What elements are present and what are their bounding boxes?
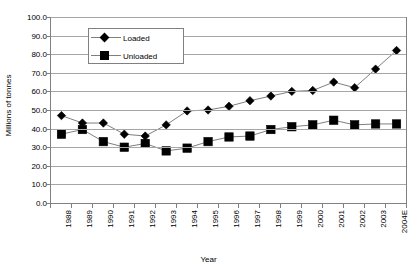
x-tick-label: 2002: [358, 210, 367, 228]
gridline: [51, 184, 407, 185]
legend-marker-diamond-icon: [89, 31, 123, 45]
y-tick-label: 0.0: [36, 199, 47, 208]
data-point-loaded[interactable]: [246, 97, 254, 105]
x-tick-mark: [113, 204, 114, 208]
x-tick-label: 1996: [232, 210, 241, 228]
x-tick-mark: [343, 204, 344, 208]
x-tick-label: 1990: [106, 210, 115, 228]
x-tick-mark: [176, 204, 177, 208]
y-tick-label: 30.0: [31, 143, 47, 152]
data-point-unloaded[interactable]: [288, 123, 296, 131]
y-tick-label: 40.0: [31, 124, 47, 133]
data-point-unloaded[interactable]: [99, 137, 107, 145]
data-point-loaded[interactable]: [57, 111, 65, 119]
gridline: [51, 73, 407, 74]
x-tick-mark: [280, 204, 281, 208]
x-tick-mark: [322, 204, 323, 208]
x-tick-mark: [218, 204, 219, 208]
data-point-unloaded[interactable]: [57, 130, 65, 138]
y-tick-label: 10.0: [31, 180, 47, 189]
data-point-unloaded[interactable]: [371, 120, 379, 128]
data-point-loaded[interactable]: [120, 130, 128, 138]
x-tick-label: 1999: [295, 210, 304, 228]
data-point-loaded[interactable]: [267, 92, 275, 100]
x-tick-label: 1995: [211, 210, 220, 228]
gridline: [51, 91, 407, 92]
data-point-unloaded[interactable]: [246, 132, 254, 140]
x-tick-label: 2001: [337, 210, 346, 228]
legend-label-loaded: Loaded: [123, 34, 150, 43]
x-tick-mark: [385, 204, 386, 208]
x-tick-mark: [259, 204, 260, 208]
x-tick-mark: [406, 204, 407, 208]
data-point-unloaded[interactable]: [330, 116, 338, 124]
data-point-unloaded[interactable]: [204, 137, 212, 145]
data-point-loaded[interactable]: [330, 78, 338, 86]
legend-marker-square-icon: [89, 49, 123, 63]
x-tick-label: 2000: [316, 210, 325, 228]
data-point-loaded[interactable]: [99, 119, 107, 127]
x-tick-label: 2004E: [400, 210, 409, 233]
legend-item-loaded[interactable]: Loaded: [89, 29, 183, 47]
x-tick-mark: [134, 204, 135, 208]
y-axis-tick-labels: 100.090.080.070.060.050.040.030.020.010.…: [14, 0, 50, 210]
x-tick-label: 2003: [379, 210, 388, 228]
x-tick-label: 1991: [127, 210, 136, 228]
x-tick-mark: [50, 204, 51, 208]
legend-item-unloaded[interactable]: Unloaded: [89, 47, 183, 65]
gridline: [51, 129, 407, 130]
x-tick-label: 1992: [148, 210, 157, 228]
y-tick-label: 80.0: [31, 50, 47, 59]
x-tick-label: 1993: [169, 210, 178, 228]
gridline: [51, 147, 407, 148]
x-tick-label: 1988: [64, 210, 73, 228]
plot-frame-right-border: [406, 17, 407, 204]
gridline: [51, 17, 407, 18]
x-tick-mark: [364, 204, 365, 208]
x-tick-label: 1997: [253, 210, 262, 228]
x-tick-label: 1994: [190, 210, 199, 228]
y-tick-label: 100.0: [27, 13, 47, 22]
x-tick-mark: [71, 204, 72, 208]
data-point-unloaded[interactable]: [225, 133, 233, 141]
chart-legend: Loaded Unloaded: [88, 28, 184, 64]
chart-container: Millions of tonnes 100.090.080.070.060.0…: [0, 0, 417, 272]
x-tick-mark: [238, 204, 239, 208]
gridline: [51, 166, 407, 167]
x-tick-mark: [197, 204, 198, 208]
x-tick-label: 1989: [85, 210, 94, 228]
y-axis-title-label: Millions of tonnes: [5, 74, 14, 136]
gridline: [51, 110, 407, 111]
y-tick-label: 60.0: [31, 87, 47, 96]
x-axis-title: Year: [0, 255, 417, 264]
x-tick-label: 1998: [274, 210, 283, 228]
y-tick-label: 70.0: [31, 68, 47, 77]
y-tick-label: 90.0: [31, 31, 47, 40]
x-tick-mark: [301, 204, 302, 208]
x-tick-mark: [155, 204, 156, 208]
data-point-unloaded[interactable]: [392, 120, 400, 128]
x-tick-mark: [92, 204, 93, 208]
legend-label-unloaded: Unloaded: [123, 52, 157, 61]
y-tick-label: 20.0: [31, 161, 47, 170]
y-tick-label: 50.0: [31, 106, 47, 115]
